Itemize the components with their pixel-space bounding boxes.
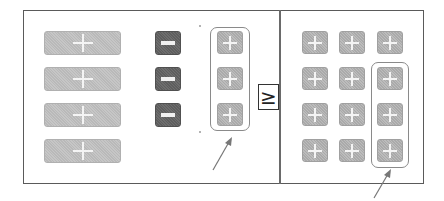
arrow-icon [213, 137, 232, 170]
arrows-layer [0, 0, 444, 201]
arrow-icon [374, 169, 391, 198]
